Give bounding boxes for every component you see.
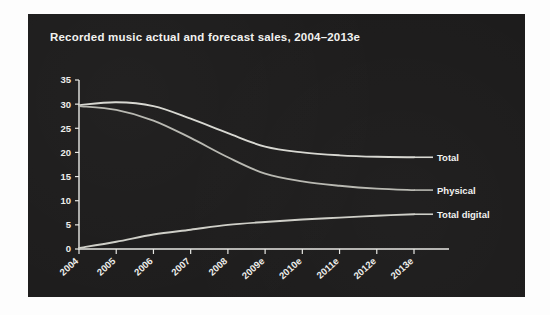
x-tick-label: 2010e bbox=[277, 255, 304, 281]
chart-panel: Recorded music actual and forecast sales… bbox=[28, 14, 525, 297]
y-tick-label: 20 bbox=[60, 147, 71, 158]
y-tick-label: 10 bbox=[60, 195, 71, 206]
x-tick-label: 2008 bbox=[206, 255, 229, 277]
x-tick-label: 2006 bbox=[132, 255, 155, 277]
series-line bbox=[79, 102, 414, 157]
x-tick-label: 2009e bbox=[239, 255, 266, 281]
y-tick-label: 35 bbox=[60, 74, 71, 85]
line-chart-plot: 05101520253035 200420052006200720082009e… bbox=[28, 14, 525, 297]
y-tick-label: 30 bbox=[60, 99, 71, 110]
y-tick-label: 5 bbox=[66, 219, 72, 230]
series-label-total: Total bbox=[437, 152, 459, 163]
x-tick-label: 2007 bbox=[169, 255, 192, 277]
series-line bbox=[79, 106, 414, 190]
y-tick-label: 0 bbox=[66, 243, 71, 254]
x-axis: 200420052006200720082009e2010e2011e2012e… bbox=[57, 249, 415, 281]
chart-page: Recorded music actual and forecast sales… bbox=[0, 0, 550, 315]
series-line bbox=[79, 214, 414, 248]
series-lines bbox=[79, 102, 414, 248]
series-label-physical: Physical bbox=[437, 185, 476, 196]
x-tick-label: 2011e bbox=[314, 255, 341, 281]
x-tick-label: 2004 bbox=[57, 255, 81, 278]
x-tick-label: 2012e bbox=[351, 255, 378, 281]
y-tick-label: 25 bbox=[60, 123, 71, 134]
x-tick-label: 2005 bbox=[94, 255, 118, 278]
x-tick-label: 2013e bbox=[388, 255, 415, 281]
series-annotations: TotalPhysicalTotal digital bbox=[414, 152, 490, 220]
series-label-total-digital: Total digital bbox=[437, 209, 490, 220]
y-tick-label: 15 bbox=[60, 171, 71, 182]
